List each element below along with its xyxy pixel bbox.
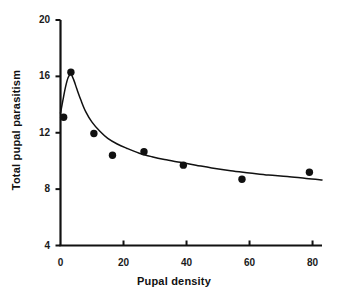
data-point <box>60 114 67 121</box>
data-point <box>109 152 116 159</box>
fitted-curve <box>61 74 323 180</box>
x-tick-label: 40 <box>181 258 192 268</box>
data-point-group <box>60 68 313 183</box>
data-point <box>306 169 313 176</box>
y-axis-label: Total pupal parasitism <box>10 70 22 190</box>
x-tick-label: 0 <box>58 258 64 268</box>
y-axis-label-container: Total pupal parasitism <box>4 0 28 260</box>
data-point <box>238 176 245 183</box>
data-point <box>140 148 147 155</box>
x-tick-label: 20 <box>118 258 129 268</box>
x-axis-label: Pupal density <box>0 275 348 287</box>
data-point <box>90 130 97 137</box>
data-point <box>180 161 187 168</box>
data-point <box>67 68 74 75</box>
x-tick-label: 80 <box>307 258 318 268</box>
chart-figure: 48121620020406080 Total pupal parasitism… <box>0 0 348 297</box>
x-tick-label: 60 <box>244 258 255 268</box>
plot-area <box>0 0 348 297</box>
